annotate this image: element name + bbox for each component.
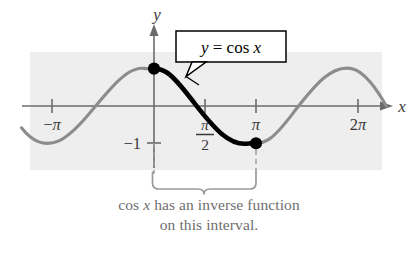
tick-label-2pi: 2π — [350, 115, 367, 134]
caption-line-2: on this interval. — [0, 216, 418, 234]
curve-label-text: y = cos x — [199, 38, 262, 57]
endpoint-dot-pi-negone — [250, 137, 262, 149]
tick-label-pi: π — [252, 115, 261, 134]
tick-label-pi-over-2-numerator: π — [201, 116, 210, 133]
y-axis-arrowhead — [150, 24, 159, 36]
tick-label-neg-pi: −π — [43, 115, 61, 134]
axis-label-x: x — [397, 97, 406, 116]
axis-label-y: y — [151, 5, 161, 24]
tick-label-pi-over-2-denominator: 2 — [201, 136, 209, 153]
caption-line-1-post: has an inverse function — [150, 196, 300, 213]
endpoint-dot-origin-one — [148, 63, 160, 75]
caption-line-1: cos x has an inverse function — [0, 196, 418, 214]
tick-label-neg-one: −1 — [123, 134, 141, 153]
interval-brace — [153, 172, 257, 195]
caption-line-1-pre: cos — [118, 196, 143, 213]
